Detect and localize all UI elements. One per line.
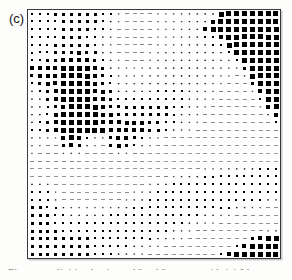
hinton-diagram-canvas <box>28 10 280 258</box>
hinton-plot-frame <box>27 9 281 259</box>
figure-caption-strip: Figure — digitized using a 16 × 16 squar… <box>0 266 292 280</box>
panel-label: (c) <box>9 12 24 26</box>
figure-panel-c: (c) Figure — digitized using a 16 × 16 s… <box>0 0 292 280</box>
figure-caption: Figure — digitized using a 16 × 16 squar… <box>8 266 292 279</box>
